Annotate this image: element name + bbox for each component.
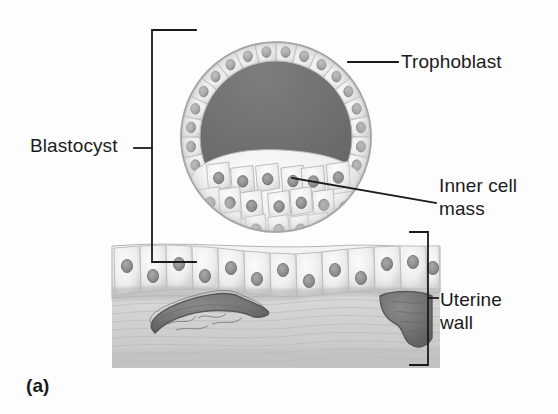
label-inner-cell-mass-line2: mass — [439, 197, 517, 220]
blastocyst-group — [181, 27, 371, 262]
label-uterine-wall: Uterine wall — [440, 288, 502, 334]
inner-cell-mass-cell — [330, 214, 352, 242]
blastocyst-implantation-figure: Blastocyst Trophoblast Inner cell mass U… — [0, 0, 558, 414]
label-uterine-wall-line1: Uterine — [440, 289, 502, 310]
inner-cell-mass-cell — [198, 215, 220, 243]
label-uterine-wall-line2: wall — [440, 311, 502, 334]
label-blastocyst: Blastocyst — [30, 134, 118, 157]
inner-cell-mass-nucleus — [336, 224, 346, 236]
inner-cell-mass-nucleus — [204, 224, 214, 236]
panel-label: (a) — [26, 374, 50, 397]
label-inner-cell-mass: Inner cell mass — [439, 174, 517, 220]
label-inner-cell-mass-line1: Inner cell — [439, 175, 517, 196]
label-trophoblast: Trophoblast — [401, 50, 502, 73]
